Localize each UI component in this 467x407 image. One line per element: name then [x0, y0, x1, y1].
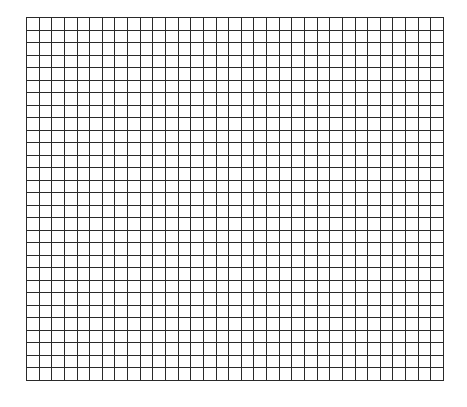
grid-lines — [26, 17, 445, 382]
graph-paper-grid — [26, 17, 445, 386]
